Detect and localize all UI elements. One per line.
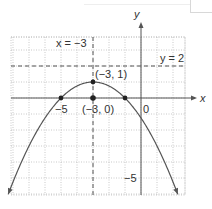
ref-label-horizontal: y = 2 [160, 52, 184, 64]
grid-border [11, 37, 185, 195]
y-axis-arrow-icon [139, 22, 144, 28]
point-root-left [59, 96, 64, 101]
x-tick-label-0: 0 [143, 103, 149, 115]
labels: x y x = −3 y = 2 (−3, 1) (−3, 0) −5 0 −5 [55, 8, 206, 184]
point-focus-center [90, 95, 96, 101]
x-axis-label: x [199, 92, 206, 104]
curve-arrow-right-icon [173, 188, 178, 194]
y-axis-label: y [133, 8, 141, 20]
ref-label-vertical: x = −3 [56, 37, 87, 49]
reference-lines [11, 37, 185, 195]
x-axis-arrow-icon [191, 96, 197, 101]
center-label: (−3, 0) [82, 103, 114, 115]
y-tick-label-neg5: −5 [124, 172, 137, 184]
x-tick-label-neg5: −5 [55, 103, 68, 115]
vertex-label: (−3, 1) [95, 68, 127, 80]
grid [11, 37, 185, 195]
point-vertex [91, 80, 96, 85]
point-root-right [123, 96, 128, 101]
chart: x y x = −3 y = 2 (−3, 1) (−3, 0) −5 0 −5 [0, 0, 212, 209]
curve-arrow-left-icon [8, 188, 13, 194]
